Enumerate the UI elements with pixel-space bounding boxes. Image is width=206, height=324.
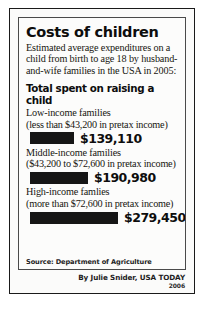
byline-credit: By Julie Snider, USA TODAY: [78, 273, 185, 282]
infographic-panel: Costs of children Estimated average expe…: [9, 8, 195, 294]
bar-row: $190,980: [30, 171, 178, 184]
standfirst-text: Estimated average expenditures on a chil…: [26, 42, 178, 76]
page-title: Costs of children: [26, 24, 178, 40]
bar-group-label: Low-income families: [26, 107, 178, 118]
bar-group-high-income: High-income famlies (more than $72,600 i…: [26, 186, 178, 224]
bar-group-qualifier: ($43,200 to $72,600 in pretax income): [26, 158, 178, 169]
byline: By Julie Snider, USA TODAY 2006: [78, 273, 185, 290]
bar-high-income: [30, 212, 118, 224]
bar-group-label: Middle-income families: [26, 147, 178, 158]
source-note: Source: Department of Agriculture: [26, 258, 152, 266]
bar-row: $279,450: [30, 211, 178, 224]
bar-middle-income: [30, 172, 88, 184]
bar-group-qualifier: (less than $43,200 in pretax income): [26, 119, 178, 130]
bar-value-high-income: $279,450: [124, 211, 186, 224]
bar-group-middle-income: Middle-income families ($43,200 to $72,6…: [26, 147, 178, 185]
bar-group-label: High-income famlies: [26, 186, 178, 197]
bar-low-income: [30, 132, 74, 144]
bar-value-middle-income: $190,980: [94, 171, 156, 184]
bar-row: $139,110: [30, 132, 178, 145]
bar-group-low-income: Low-income families (less than $43,200 i…: [26, 107, 178, 145]
section-title: Total spent on raising a child: [26, 82, 178, 106]
bar-group-qualifier: (more than $72,600 in pretax income): [26, 198, 178, 209]
infographic-inner-box: Costs of children Estimated average expe…: [18, 17, 186, 270]
byline-year: 2006: [78, 282, 185, 290]
bar-value-low-income: $139,110: [80, 132, 142, 145]
